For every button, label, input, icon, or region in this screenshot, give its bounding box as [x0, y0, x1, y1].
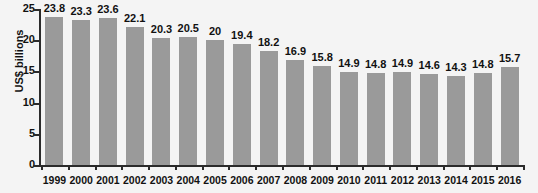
bar — [45, 17, 63, 166]
bar — [420, 74, 438, 165]
bar-value-label: 15.7 — [499, 52, 520, 64]
x-axis-tick-mark — [523, 165, 525, 170]
bar — [340, 72, 358, 165]
bar — [233, 44, 251, 165]
x-axis-tick-label: 1999 — [41, 174, 68, 186]
x-axis-tick-label: 2002 — [121, 174, 148, 186]
x-axis-tick-label: 2012 — [389, 174, 416, 186]
x-axis-tick-label: 2005 — [202, 174, 229, 186]
bar-value-label: 14.6 — [419, 59, 440, 71]
bar-value-label: 14.3 — [445, 61, 466, 73]
x-axis-tick-mark — [496, 165, 498, 170]
y-axis-tick-label: 10 — [5, 96, 35, 108]
x-axis-tick-label: 2011 — [362, 174, 389, 186]
y-axis-tick-label: 25 — [5, 2, 35, 14]
x-axis-tick-label: 2003 — [148, 174, 175, 186]
x-axis-tick-label: 2009 — [309, 174, 336, 186]
x-axis-line — [39, 165, 523, 167]
x-axis-tick-label: 2000 — [68, 174, 95, 186]
bar — [260, 51, 278, 165]
x-axis-tick-label: 2010 — [336, 174, 363, 186]
bar-group: 14.9 — [336, 0, 363, 165]
bar — [72, 20, 90, 165]
bar-value-label: 14.9 — [392, 57, 413, 69]
x-axis-tick-label: 2016 — [496, 174, 523, 186]
x-axis-tick-mark — [443, 165, 445, 170]
bar-value-label: 14.8 — [365, 58, 386, 70]
bar-group: 14.3 — [443, 0, 470, 165]
bar-value-label: 22.1 — [124, 12, 145, 24]
bar-value-label: 19.4 — [231, 29, 252, 41]
x-axis-tick-label: 2001 — [95, 174, 122, 186]
x-axis-tick-mark — [121, 165, 123, 170]
bar — [447, 76, 465, 165]
bar-value-label: 15.8 — [311, 51, 332, 63]
x-axis-tick-mark — [68, 165, 70, 170]
x-axis-tick-label: 2007 — [255, 174, 282, 186]
x-axis-tick-mark — [228, 165, 230, 170]
x-axis-tick-label: 2013 — [416, 174, 443, 186]
x-axis-tick-mark — [282, 165, 284, 170]
x-axis-tick-mark — [202, 165, 204, 170]
x-axis-tick-label: 2014 — [443, 174, 470, 186]
bar — [393, 72, 411, 165]
x-axis-tick-mark — [389, 165, 391, 170]
bar-value-label: 20.5 — [178, 22, 199, 34]
bar-value-label: 23.6 — [97, 3, 118, 15]
bar — [474, 73, 492, 165]
bar — [126, 27, 144, 165]
y-axis-tick-label: 5 — [5, 127, 35, 139]
y-axis-tick-mark — [33, 40, 39, 42]
y-axis-tick-mark — [33, 9, 39, 11]
y-axis-tick-mark — [33, 103, 39, 105]
bar-group: 14.6 — [416, 0, 443, 165]
bar-group: 15.7 — [496, 0, 523, 165]
bar-group: 22.1 — [121, 0, 148, 165]
bar-value-label: 14.8 — [472, 58, 493, 70]
bar-group: 15.8 — [309, 0, 336, 165]
bar-group: 14.8 — [362, 0, 389, 165]
bar-group: 20.5 — [175, 0, 202, 165]
x-axis-tick-mark — [362, 165, 364, 170]
x-axis-tick-label: 2015 — [469, 174, 496, 186]
y-axis-tick-mark — [33, 71, 39, 73]
bar — [313, 66, 331, 165]
bar — [99, 18, 117, 165]
bar-group: 16.9 — [282, 0, 309, 165]
x-axis-tick-mark — [309, 165, 311, 170]
bar-value-label: 23.8 — [44, 2, 65, 14]
x-axis-tick-mark — [95, 165, 97, 170]
y-axis-tick-mark — [33, 165, 39, 167]
bar — [501, 67, 519, 165]
bar-value-label: 18.2 — [258, 36, 279, 48]
bar — [152, 38, 170, 165]
bar-group: 19.4 — [228, 0, 255, 165]
y-axis-tick-label: 20 — [5, 33, 35, 45]
bar-value-label: 20.3 — [151, 23, 172, 35]
bar — [286, 60, 304, 165]
y-axis-tick-mark — [33, 134, 39, 136]
bar-group: 23.6 — [95, 0, 122, 165]
bar-group: 18.2 — [255, 0, 282, 165]
plot-area: 23.823.323.622.120.320.52019.418.216.915… — [41, 0, 523, 165]
x-axis-tick-mark — [148, 165, 150, 170]
bar-chart: US$ billions 0510152025 23.823.323.622.1… — [0, 0, 538, 193]
bar — [206, 40, 224, 165]
bar-group: 20.3 — [148, 0, 175, 165]
x-axis-tick-mark — [41, 165, 43, 170]
bar-value-label: 16.9 — [285, 45, 306, 57]
bar-value-label: 23.3 — [70, 5, 91, 17]
x-axis-tick-mark — [469, 165, 471, 170]
bar-group: 23.8 — [41, 0, 68, 165]
x-axis-tick-mark — [255, 165, 257, 170]
x-axis-tick-label: 2008 — [282, 174, 309, 186]
x-axis-tick-label: 2006 — [228, 174, 255, 186]
bar-group: 14.9 — [389, 0, 416, 165]
x-axis-tick-mark — [336, 165, 338, 170]
x-axis-tick-mark — [175, 165, 177, 170]
bar-group: 20 — [202, 0, 229, 165]
x-axis-tick-label: 2004 — [175, 174, 202, 186]
bar — [367, 73, 385, 165]
bar — [179, 37, 197, 165]
bar-group: 14.8 — [469, 0, 496, 165]
